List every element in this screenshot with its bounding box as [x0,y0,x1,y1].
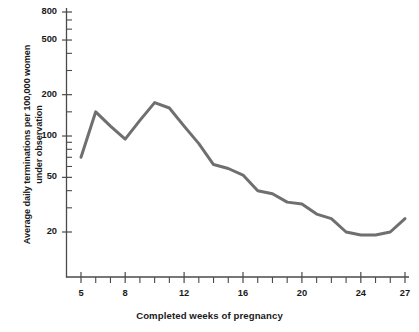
plot-canvas [0,0,419,332]
x-tick-label: 20 [289,288,315,298]
x-tick-label: 16 [230,288,256,298]
x-tick-label: 8 [112,288,138,298]
axis-lines [66,8,409,278]
x-tick-label: 5 [68,288,94,298]
y-tick-label: 20 [23,226,57,236]
y-tick-label: 50 [23,171,57,181]
y-tick-label: 800 [23,6,57,16]
y-tick-label: 200 [23,89,57,99]
x-tick-label: 24 [348,288,374,298]
chart-figure: Average daily terminations per 100,000 w… [0,0,419,332]
y-tick-label: 500 [23,34,57,44]
x-tick-label: 27 [392,288,418,298]
x-tick-label: 12 [171,288,197,298]
y-tick-label: 100 [23,130,57,140]
data-series-layer [81,103,405,235]
